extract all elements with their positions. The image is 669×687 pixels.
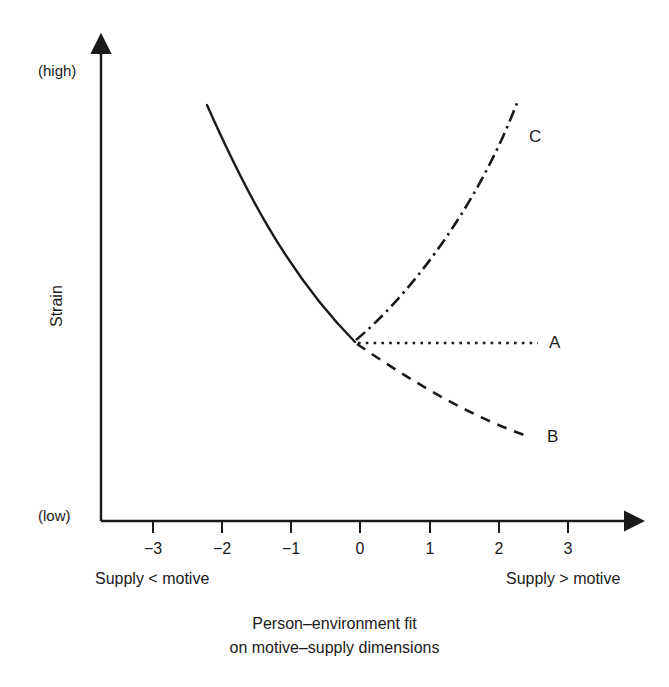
caption-line-1: Person–environment fit <box>0 616 669 632</box>
curve-b-dashed <box>357 344 530 437</box>
curve-c-dashdot <box>356 103 517 340</box>
x-tick-label-2: 2 <box>495 541 504 557</box>
series-label-a: A <box>549 334 560 351</box>
y-axis-title: Strain <box>48 285 66 327</box>
curve-shared-solid <box>207 105 355 342</box>
figure-canvas: (high) (low) Strain −3 −2 −1 0 1 2 3 A B… <box>0 0 669 687</box>
x-axis-left-note: Supply < motive <box>95 571 209 587</box>
series-label-c: C <box>529 128 541 145</box>
x-tick-label-neg1: −1 <box>282 541 300 557</box>
x-tick-label-0: 0 <box>356 541 365 557</box>
x-axis-right-note: Supply > motive <box>506 571 620 587</box>
x-tick-label-3: 3 <box>564 541 573 557</box>
series-label-b: B <box>547 428 558 445</box>
caption-line-2: on motive–supply dimensions <box>0 640 669 656</box>
x-tick-label-neg2: −2 <box>213 541 231 557</box>
x-tick-label-neg3: −3 <box>144 541 162 557</box>
x-tick-label-1: 1 <box>426 541 435 557</box>
x-axis-ticks <box>153 521 568 533</box>
y-axis-high-label: (high) <box>38 63 76 78</box>
y-axis-low-label: (low) <box>38 508 71 523</box>
